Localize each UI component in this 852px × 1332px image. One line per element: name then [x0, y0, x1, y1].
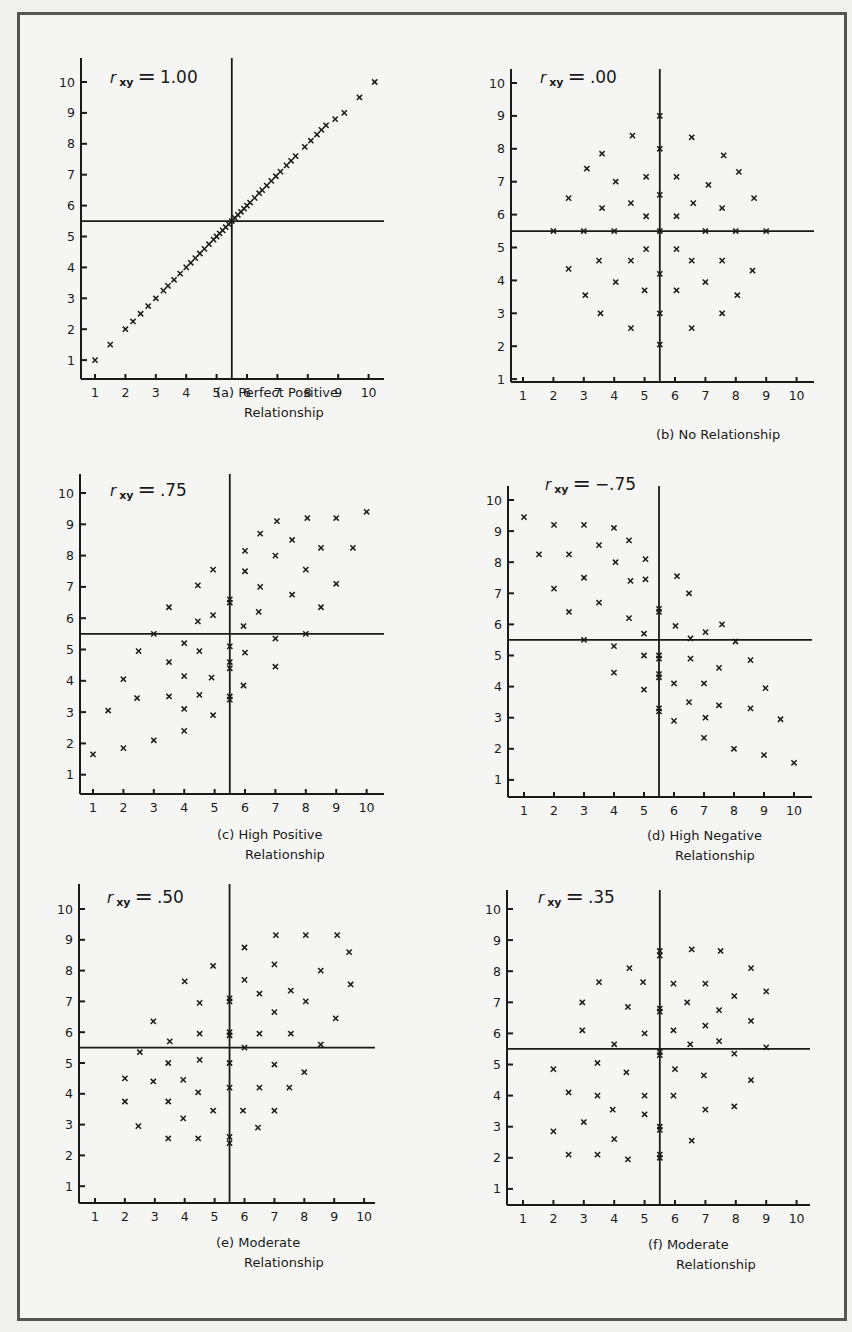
data-point-x-marker	[764, 989, 769, 994]
data-point-x-marker	[580, 1000, 585, 1005]
data-point-x-marker	[566, 1090, 571, 1095]
y-tick-label: 9	[493, 933, 501, 948]
data-point-x-marker	[718, 948, 723, 953]
data-point-x-marker	[612, 1137, 617, 1142]
x-tick-label: 8	[732, 1211, 740, 1226]
data-point-x-marker	[732, 993, 737, 998]
data-point-x-marker	[748, 1018, 753, 1023]
y-tick-label: 6	[493, 1026, 501, 1041]
y-tick-label: 1	[493, 1181, 501, 1196]
y-tick-label: 8	[493, 964, 501, 979]
data-point-x-marker	[689, 1138, 694, 1143]
x-tick-label: 6	[671, 1211, 679, 1226]
y-tick-label: 2	[493, 1150, 501, 1165]
x-tick-label: 4	[610, 1211, 618, 1226]
data-point-x-marker	[688, 1042, 693, 1047]
data-point-x-marker	[716, 1007, 721, 1012]
scatter-plot: 1234567891012345678910	[0, 0, 852, 1332]
panel-caption: (f) Moderate Relationship	[648, 1235, 756, 1275]
data-point-x-marker	[581, 1119, 586, 1124]
data-point-x-marker	[701, 1073, 706, 1078]
data-point-x-marker	[732, 1104, 737, 1109]
data-point-x-marker	[612, 1042, 617, 1047]
data-point-x-marker	[703, 981, 708, 986]
data-point-x-marker	[596, 979, 601, 984]
data-point-x-marker	[625, 1157, 630, 1162]
data-point-x-marker	[685, 1000, 690, 1005]
data-point-x-marker	[595, 1152, 600, 1157]
y-tick-label: 7	[493, 995, 501, 1010]
x-tick-label: 2	[549, 1211, 557, 1226]
data-point-x-marker	[595, 1060, 600, 1065]
data-point-x-marker	[580, 1028, 585, 1033]
data-point-x-marker	[642, 1093, 647, 1098]
x-tick-label: 7	[701, 1211, 709, 1226]
correlation-label: rxy=.35	[538, 883, 615, 908]
data-point-x-marker	[627, 965, 632, 970]
data-point-x-marker	[703, 1107, 708, 1112]
data-point-x-marker	[716, 1039, 721, 1044]
data-point-x-marker	[732, 1051, 737, 1056]
y-tick-label: 5	[493, 1057, 501, 1072]
data-point-x-marker	[566, 1152, 571, 1157]
y-tick-label: 4	[493, 1088, 501, 1103]
scatter-panel-f: 1234567891012345678910 rxy=.35 (f) Moder…	[0, 0, 426, 436]
data-point-x-marker	[625, 1004, 630, 1009]
data-point-x-marker	[642, 1031, 647, 1036]
x-tick-label: 9	[762, 1211, 770, 1226]
data-point-x-marker	[610, 1107, 615, 1112]
data-point-x-marker	[671, 1028, 676, 1033]
x-tick-label: 10	[789, 1211, 805, 1226]
data-point-x-marker	[551, 1129, 556, 1134]
data-point-x-marker	[748, 965, 753, 970]
x-tick-label: 3	[580, 1211, 588, 1226]
y-tick-label: 10	[485, 902, 501, 917]
data-point-x-marker	[748, 1077, 753, 1082]
data-point-x-marker	[703, 1023, 708, 1028]
data-point-x-marker	[640, 979, 645, 984]
data-point-x-marker	[551, 1067, 556, 1072]
data-point-x-marker	[671, 981, 676, 986]
data-point-x-marker	[624, 1070, 629, 1075]
y-tick-label: 3	[493, 1119, 501, 1134]
data-point-x-marker	[689, 947, 694, 952]
data-point-x-marker	[671, 1093, 676, 1098]
data-point-x-marker	[672, 1067, 677, 1072]
x-tick-label: 1	[519, 1211, 527, 1226]
data-point-x-marker	[595, 1093, 600, 1098]
x-tick-label: 5	[641, 1211, 649, 1226]
data-point-x-marker	[642, 1112, 647, 1117]
